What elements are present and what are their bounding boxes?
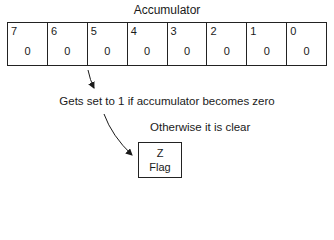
set-condition-caption: Gets set to 1 if accumulator becomes zer… bbox=[0, 95, 334, 107]
flag-letter: Z bbox=[139, 146, 181, 160]
arrow-to-flag-icon bbox=[104, 114, 132, 155]
clear-condition-caption: Otherwise it is clear bbox=[150, 121, 250, 133]
arrow-to-caption-icon bbox=[88, 70, 94, 88]
flag-label: Flag bbox=[139, 160, 181, 174]
z-flag-box: Z Flag bbox=[138, 142, 182, 178]
